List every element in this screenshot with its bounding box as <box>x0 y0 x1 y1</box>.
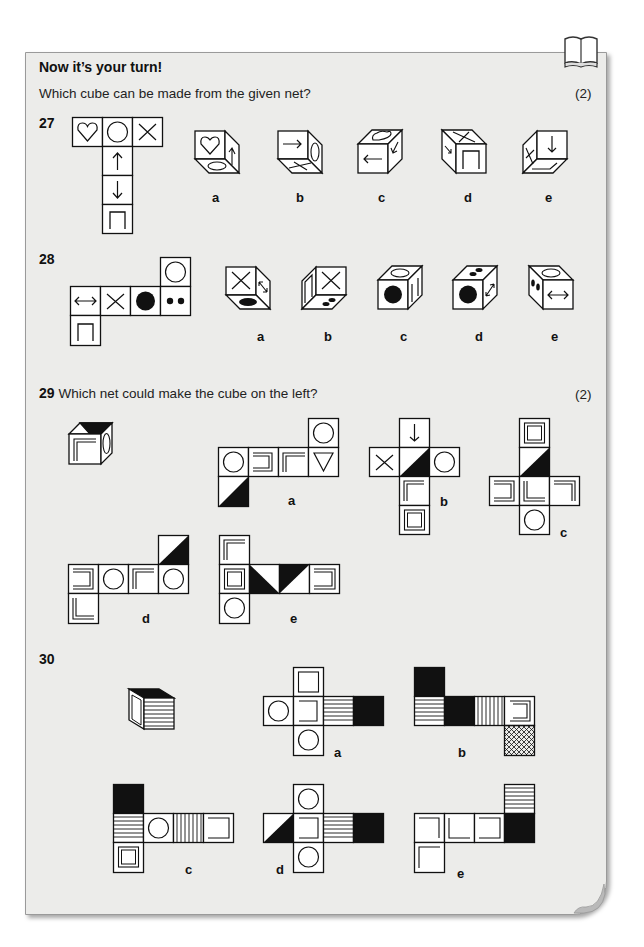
q27-option-c-label: c <box>378 190 385 205</box>
q27-option-a-label: a <box>212 190 219 205</box>
q29-option-e-net[interactable] <box>219 535 341 625</box>
q29-option-d-label: d <box>142 611 150 626</box>
question-number-27: 27 <box>39 115 55 131</box>
q29-option-d-net[interactable] <box>68 535 190 625</box>
q29-option-a-net[interactable] <box>218 418 340 508</box>
q29-option-a-label: a <box>288 493 295 508</box>
q27-option-c-cube[interactable] <box>357 128 407 176</box>
q29-option-c-net[interactable] <box>489 418 581 536</box>
q28-option-c-label: c <box>400 329 407 344</box>
q27-option-d-label: d <box>464 190 472 205</box>
q28-option-b-label: b <box>324 329 332 344</box>
q30-option-d-label: d <box>276 862 284 877</box>
q30-option-e-label: e <box>457 866 464 881</box>
q29-option-e-label: e <box>290 611 297 626</box>
q28-net <box>70 257 192 347</box>
q27-option-a-cube[interactable] <box>194 130 244 176</box>
q28-option-e-cube[interactable] <box>528 264 578 312</box>
question-29-text: Which net could make the cube on the lef… <box>59 386 318 401</box>
instruction-text: Which cube can be made from the given ne… <box>39 86 311 101</box>
q30-option-b-label: b <box>458 745 466 760</box>
section-heading: Now it’s your turn! <box>39 59 162 75</box>
q28-option-a-cube[interactable] <box>225 266 275 312</box>
open-book-icon <box>563 35 599 69</box>
q28-option-d-label: d <box>475 329 483 344</box>
q30-option-b-net[interactable] <box>414 667 536 757</box>
question-number-28: 28 <box>39 251 55 267</box>
q29-option-c-label: c <box>560 525 567 540</box>
q28-option-b-cube[interactable] <box>301 266 351 312</box>
q27-option-b-label: b <box>296 190 304 205</box>
q29-option-b-label: b <box>440 494 448 509</box>
q28-option-c-cube[interactable] <box>377 264 427 312</box>
question-number-29: 29 <box>39 385 55 401</box>
page-curl-decoration <box>572 880 606 914</box>
q27-option-e-label: e <box>545 190 552 205</box>
q29-option-b-net[interactable] <box>369 418 461 536</box>
q30-reference-cube <box>128 688 176 730</box>
q30-option-a-net[interactable] <box>263 667 385 757</box>
q29-reference-cube <box>68 422 116 466</box>
marks-label-29: (2) <box>575 387 592 402</box>
q30-option-d-net[interactable] <box>263 784 385 874</box>
q27-net <box>72 117 164 235</box>
marks-label: (2) <box>575 86 592 101</box>
question-number-30: 30 <box>39 651 55 667</box>
q30-option-a-label: a <box>334 745 341 760</box>
q27-option-d-cube[interactable] <box>441 128 491 176</box>
question-29: 29Which net could make the cube on the l… <box>39 385 317 401</box>
q30-option-e-net[interactable] <box>414 784 536 874</box>
q28-option-e-label: e <box>551 329 558 344</box>
q27-option-b-cube[interactable] <box>277 130 327 176</box>
q27-option-e-cube[interactable] <box>522 130 572 176</box>
q28-option-d-cube[interactable] <box>452 264 502 312</box>
q30-option-c-net[interactable] <box>113 784 235 874</box>
q30-option-c-label: c <box>185 862 192 877</box>
q28-option-a-label: a <box>257 329 264 344</box>
